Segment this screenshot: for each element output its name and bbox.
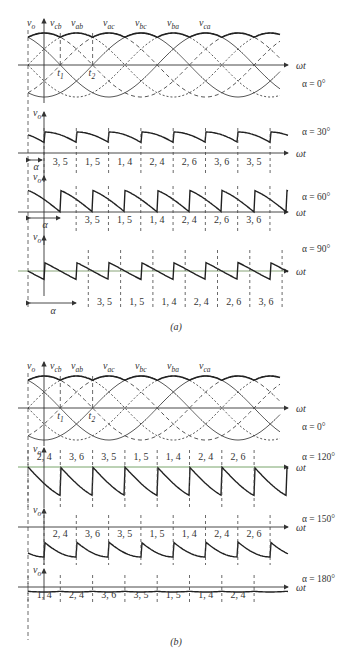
alpha-span-label: α — [50, 305, 56, 316]
phase-label-bc: vbc — [135, 17, 147, 31]
output-voltage-waveform — [28, 542, 288, 557]
t2-label: t2 — [89, 410, 96, 424]
caption-a: (a) — [170, 321, 182, 333]
conducting-pair-label: 3, 6 — [246, 214, 261, 225]
conducting-pair-label: 3, 5 — [85, 214, 100, 225]
conducting-pair-label: 3, 5 — [134, 589, 149, 600]
conducting-pair-label: 2, 4 — [182, 214, 197, 225]
conducting-pair-label: 2, 4 — [230, 589, 245, 600]
phase-label-ac: vac — [103, 17, 115, 31]
conducting-pair-label: 3, 6 — [258, 296, 273, 307]
conducting-pair-label: 2, 4 — [37, 451, 52, 462]
conducting-pair-label: 1, 5 — [85, 156, 100, 167]
vo-axis-label: vo — [33, 231, 41, 245]
conducting-pair-label: 2, 4 — [53, 528, 68, 539]
conducting-pair-label: 1, 5 — [117, 214, 132, 225]
conducting-pair-label: 2, 6 — [246, 528, 261, 539]
alpha-label: α = 180° — [302, 574, 335, 584]
conducting-pair-label: 2, 4 — [214, 528, 229, 539]
conducting-pair-label: 3, 6 — [214, 156, 229, 167]
conducting-pair-label: 1, 5 — [150, 528, 165, 539]
conducting-pair-label: 3, 5 — [101, 451, 116, 462]
conducting-pair-label: 1, 4 — [162, 296, 177, 307]
alpha-label: α = 120° — [302, 452, 335, 462]
conducting-pair-label: 2, 4 — [69, 589, 84, 600]
conducting-pair-label: 3, 5 — [97, 296, 112, 307]
alpha-label: α = 60° — [302, 192, 331, 202]
t1-label: t1 — [57, 410, 64, 424]
vo-axis-label: vo — [33, 171, 41, 185]
alpha-span-label: α — [42, 219, 48, 230]
conducting-pair-label: 1, 5 — [134, 451, 149, 462]
conducting-pair-label: 3, 6 — [69, 451, 84, 462]
output-envelope — [28, 376, 280, 380]
output-envelope — [28, 33, 280, 37]
phase-label-cb: vcb — [50, 360, 62, 374]
conducting-pair-label: 1, 4 — [37, 589, 52, 600]
phase-label-cb: vcb — [50, 17, 62, 31]
conducting-pair-label: 1, 4 — [117, 156, 132, 167]
phase-label-ca: vca — [199, 360, 211, 374]
conducting-pair-label: 3, 6 — [85, 528, 100, 539]
output-voltage-waveform — [28, 190, 288, 212]
vo-axis-label: vo — [33, 107, 41, 121]
phase-label-ba: vba — [167, 360, 179, 374]
alpha-label: α = 0° — [302, 79, 326, 89]
conducting-pair-label: 1, 4 — [149, 214, 164, 225]
alpha-label: α = 90° — [302, 244, 331, 254]
vo-axis-label: vo — [27, 360, 35, 374]
conducting-pair-label: 2, 4 — [150, 156, 165, 167]
phase-label-ac: vac — [103, 360, 115, 374]
phase-label-bc: vbc — [135, 360, 147, 374]
wt-axis-label: ωt — [296, 207, 306, 218]
conducting-pair-label: 3, 5 — [246, 156, 261, 167]
wt-axis-label: ωt — [296, 266, 306, 277]
conducting-pair-label: 2, 4 — [198, 451, 213, 462]
conducting-pair-label: 1, 4 — [182, 528, 197, 539]
t1-label: t1 — [57, 67, 64, 81]
phase-label-ca: vca — [199, 17, 211, 31]
wt-axis-label: ωt — [296, 60, 306, 71]
output-voltage-waveform — [28, 132, 288, 143]
conducting-pair-label: 2, 6 — [182, 156, 197, 167]
phase-label-ba: vba — [167, 17, 179, 31]
output-voltage-waveform — [28, 591, 288, 592]
rectifier-waveform-figure: t1t2vovcbvabvacvbcvbavcaωtα = 0°vo3, 51,… — [0, 0, 351, 665]
phase-label-ab: vab — [71, 360, 83, 374]
conducting-pair-label: 1, 4 — [166, 451, 181, 462]
caption-b: (b) — [170, 636, 182, 648]
conducting-pair-label: 1, 5 — [166, 589, 181, 600]
alpha-label: α = 150° — [302, 514, 335, 524]
alpha-label: α = 0° — [302, 422, 326, 432]
conducting-pair-label: 3, 5 — [53, 156, 68, 167]
wt-axis-label: ωt — [296, 148, 306, 159]
conducting-pair-label: 3, 6 — [101, 589, 116, 600]
conducting-pair-label: 3, 5 — [117, 528, 132, 539]
wt-axis-label: ωt — [296, 403, 306, 414]
conducting-pair-label: 1, 4 — [198, 589, 213, 600]
output-voltage-waveform — [28, 467, 288, 496]
vo-axis-label: vo — [33, 504, 41, 518]
conducting-pair-label: 2, 4 — [194, 296, 209, 307]
conducting-pair-label: 2, 6 — [226, 296, 241, 307]
vo-axis-label: vo — [33, 564, 41, 578]
conducting-pair-label: 1, 5 — [129, 296, 144, 307]
phase-label-ab: vab — [71, 17, 83, 31]
vo-axis-label: vo — [27, 17, 35, 31]
alpha-label: α = 30° — [302, 127, 331, 137]
conducting-pair-label: 2, 6 — [230, 451, 245, 462]
wt-axis-label: ωt — [296, 462, 306, 473]
conducting-pair-label: 2, 6 — [214, 214, 229, 225]
t2-label: t2 — [89, 67, 96, 81]
